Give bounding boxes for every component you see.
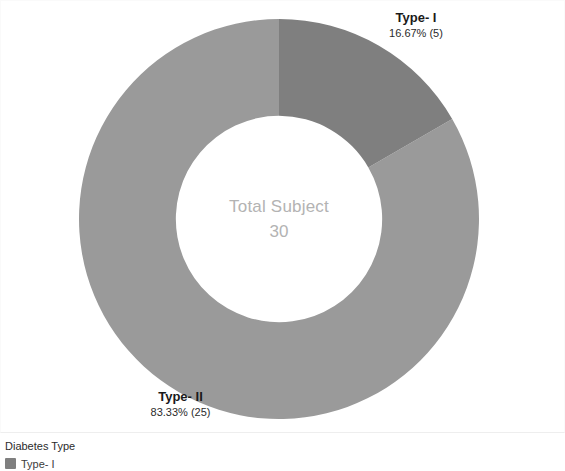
- legend: Diabetes Type Type- I: [0, 434, 565, 471]
- legend-item-label: Type- I: [21, 457, 55, 471]
- slice-label-type-1-value: 16.67% (5): [351, 26, 481, 40]
- chart-panel: Total Subject 30 Type- I 16.67% (5) Type…: [0, 0, 565, 433]
- slice-label-type-1: Type- I 16.67% (5): [351, 10, 481, 41]
- donut-svg: [79, 19, 479, 419]
- slice-label-type-2-name: Type- II: [93, 389, 268, 405]
- slice-label-type-1-name: Type- I: [351, 10, 481, 26]
- donut-chart-screen: Total Subject 30 Type- I 16.67% (5) Type…: [0, 0, 565, 471]
- legend-items: Type- I: [5, 457, 565, 471]
- legend-swatch-icon: [5, 458, 16, 469]
- donut-slices: [79, 19, 479, 419]
- slice-label-type-2: Type- II 83.33% (25): [93, 389, 268, 420]
- slice-label-type-2-value: 83.33% (25): [93, 405, 268, 419]
- legend-title: Diabetes Type: [5, 439, 565, 454]
- legend-item[interactable]: Type- I: [5, 457, 565, 471]
- donut-chart[interactable]: [79, 19, 479, 419]
